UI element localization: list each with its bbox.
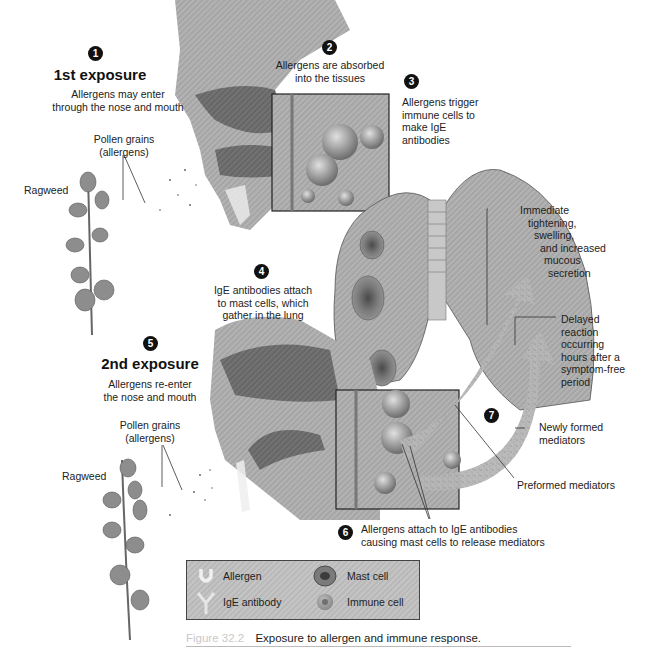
step-6-badge: 6 bbox=[338, 525, 353, 540]
step-5-badge: 5 bbox=[143, 336, 158, 351]
step-2-description: Allergens are absorbed into the tissues bbox=[270, 59, 390, 84]
preformed-mediators-label: Preformed mediators bbox=[517, 479, 647, 492]
step-3-badge: 3 bbox=[404, 74, 419, 89]
step-1-badge: 1 bbox=[88, 46, 103, 61]
step-5-description: Allergens re-enter the nose and mouth bbox=[95, 378, 205, 403]
step-5-title: 2nd exposure bbox=[95, 355, 205, 372]
step-4-description: IgE antibodies attach to mast cells, whi… bbox=[208, 284, 318, 322]
figure-caption: Figure 32.2 Exposure to allergen and imm… bbox=[186, 632, 571, 647]
legend: Allergen IgE antibody Mast cell Immune c… bbox=[186, 560, 420, 620]
legend-allergen: Allergen bbox=[223, 570, 262, 582]
figure-number: Figure 32.2 bbox=[186, 632, 244, 644]
figure-caption-text: Exposure to allergen and immune response… bbox=[255, 632, 481, 644]
step-2-badge: 2 bbox=[322, 40, 337, 55]
pollen-label-2: Pollen grains (allergens) bbox=[110, 419, 190, 444]
step-4-badge: 4 bbox=[254, 264, 269, 279]
allergen-icon bbox=[198, 567, 214, 585]
mast-cell-icon bbox=[312, 564, 338, 588]
step-7-badge: 7 bbox=[484, 408, 499, 423]
step-1-title: 1st exposure bbox=[50, 66, 150, 83]
ige-antibody-icon bbox=[196, 591, 216, 615]
step-3-description: Allergens trigger immune cells to make I… bbox=[402, 96, 492, 146]
pollen-label-1: Pollen grains (allergens) bbox=[84, 133, 164, 158]
legend-mast-cell: Mast cell bbox=[347, 570, 388, 582]
ragweed-label-1: Ragweed bbox=[24, 184, 68, 197]
ragweed-label-2: Ragweed bbox=[62, 470, 106, 483]
immediate-reaction-label: Immediate tightening, swelling, and incr… bbox=[520, 204, 630, 279]
legend-ige-antibody: IgE antibody bbox=[223, 596, 281, 608]
delayed-reaction-label: Delayed reaction occurring hours after a… bbox=[561, 313, 659, 388]
step-6-description: Allergens attach to IgE antibodies causi… bbox=[361, 523, 581, 548]
newly-formed-mediators-label: Newly formed mediators bbox=[539, 421, 639, 446]
immune-cell-icon bbox=[315, 592, 335, 612]
legend-immune-cell: Immune cell bbox=[347, 596, 404, 608]
step-1-description: Allergens may enter through the nose and… bbox=[48, 88, 188, 113]
